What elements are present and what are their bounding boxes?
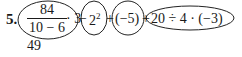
last-term: 20 ÷ 4 · (−3) bbox=[151, 11, 223, 27]
exercise-number: 5. bbox=[6, 11, 17, 28]
fraction-bar bbox=[27, 18, 67, 19]
fraction-numerator: 84 bbox=[27, 2, 67, 17]
negative-five: (−5) bbox=[115, 11, 139, 27]
operator-plus-2: + bbox=[142, 11, 150, 27]
power-exponent: 2 bbox=[96, 11, 101, 21]
fraction-denominator: 10 − 6 bbox=[27, 20, 67, 35]
answer: 49 bbox=[27, 38, 41, 54]
power-base: 2 bbox=[89, 13, 96, 28]
operator-minus: − bbox=[79, 11, 87, 27]
power-term: 22 bbox=[89, 11, 101, 29]
fraction: 84 10 − 6 bbox=[27, 2, 67, 35]
operator-plus-1: + bbox=[106, 11, 114, 27]
